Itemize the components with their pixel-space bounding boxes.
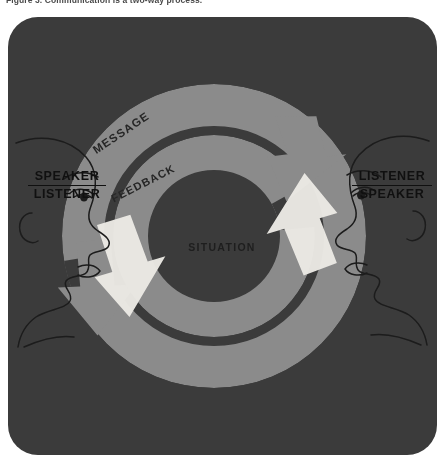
diagram-panel: MESSAGE FEEDBACK: [8, 17, 437, 455]
role-label-right: LISTENER SPEAKER: [352, 170, 432, 201]
communication-cycle-illustration: [8, 17, 437, 455]
role-label-left: SPEAKER LISTENER: [28, 170, 106, 201]
figure-caption: Figure 3. Communication is a two-way pro…: [6, 0, 436, 7]
role-left-secondary: LISTENER: [28, 188, 106, 201]
role-right-divider: [352, 185, 432, 187]
role-left-divider: [28, 185, 106, 187]
role-right-primary: LISTENER: [352, 170, 432, 183]
paper-grain-overlay: [8, 17, 437, 455]
role-left-primary: SPEAKER: [28, 170, 106, 183]
role-right-secondary: SPEAKER: [352, 188, 432, 201]
center-label-situation: SITUATION: [0, 241, 444, 253]
